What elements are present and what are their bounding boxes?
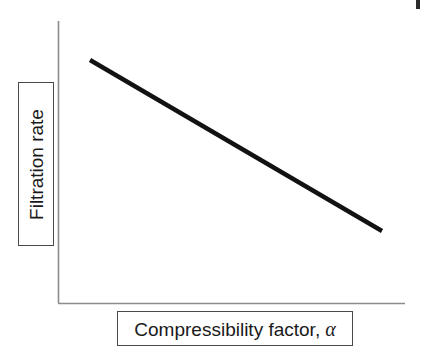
y-axis-label-text: Filtration rate (27, 109, 46, 220)
plot-area (0, 0, 431, 357)
x-axis-label-text: Compressibility factor, α (134, 319, 335, 339)
x-axis-label-words: Compressibility factor, (134, 319, 320, 340)
page-edge-mark-artifact (416, 0, 420, 9)
x-axis-label-box: Compressibility factor, α (117, 311, 353, 346)
chart-figure: Filtration rate Compressibility factor, … (0, 0, 431, 357)
data-line-filtration-rate (90, 60, 382, 231)
y-axis-label-box: Filtration rate (18, 82, 54, 246)
alpha-symbol: α (320, 318, 336, 340)
